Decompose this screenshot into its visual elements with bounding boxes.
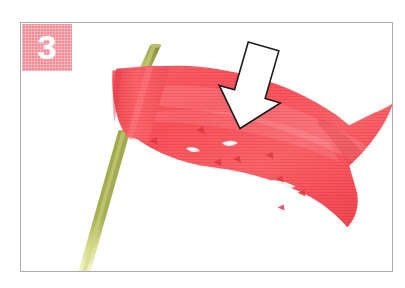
step-number-badge: 3 [22,24,72,71]
photo-frame: 3 [20,22,393,272]
screenshot-root: 3 [0,0,405,288]
arrow-glyph [209,38,294,138]
arrow-indicator [21,23,392,271]
step-number-label: 3 [38,30,57,64]
photo-canvas [21,23,392,271]
